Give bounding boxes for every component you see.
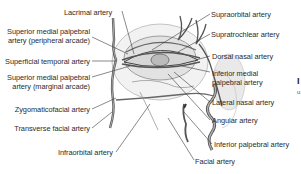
label-superior-medial-palpebral-marginal-line1: Superior medial palpebral — [6, 73, 90, 82]
cropped-text-fragment-2: u — [297, 89, 300, 95]
label-inferior-palpebral-artery: Inferior palpebral artery — [214, 140, 289, 149]
label-zygomaticofacial-artery: Zygomaticofacial artery — [6, 105, 90, 114]
label-angular-artery: Angular artery — [212, 116, 258, 125]
label-supraorbital-artery: Supraorbital artery — [211, 10, 271, 19]
label-facial-artery: Facial artery — [195, 157, 235, 166]
label-superficial-temporal-artery: Superficial temporal artery — [0, 57, 90, 66]
label-dorsal-nasal-artery: Dorsal nasal artery — [212, 52, 273, 61]
label-lateral-nasal-artery: Lateral nasal artery — [212, 98, 274, 107]
label-transverse-facial-artery: Transverse facial artery — [6, 124, 90, 133]
label-lacrimal-artery: Lacrimal artery — [64, 8, 112, 17]
label-supratrochlear-artery: Supratrochlear artery — [211, 30, 279, 39]
label-superior-medial-palpebral-peripheral-line2: artery (peripheral arcade) — [6, 36, 90, 45]
label-superior-medial-palpebral-peripheral-line1: Superior medial palpebral — [6, 27, 90, 36]
label-inferior-medial-palpebral-line1: Inferior medial — [212, 69, 258, 78]
cropped-text-fragment: I — [297, 76, 300, 86]
label-infraorbital-artery: Infraorbital artery — [58, 148, 113, 157]
label-inferior-medial-palpebral-line2: palpebral artery — [212, 78, 263, 87]
eyelid-arteries-diagram: Lacrimal artery Superior medial palpebra… — [0, 0, 301, 174]
label-superior-medial-palpebral-marginal-line2: artery (marginal arcade) — [6, 82, 90, 91]
